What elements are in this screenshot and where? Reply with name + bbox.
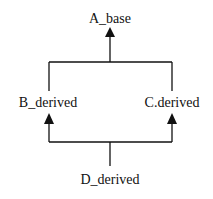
node-d-derived: D_derived bbox=[80, 172, 139, 188]
node-c-derived: C.derived bbox=[145, 95, 200, 111]
arrowhead-c bbox=[167, 113, 177, 124]
arrowhead-b bbox=[44, 113, 54, 124]
node-a-base: A_base bbox=[89, 11, 131, 27]
node-b-derived: B_derived bbox=[19, 95, 77, 111]
arrowhead-a bbox=[105, 27, 115, 37]
